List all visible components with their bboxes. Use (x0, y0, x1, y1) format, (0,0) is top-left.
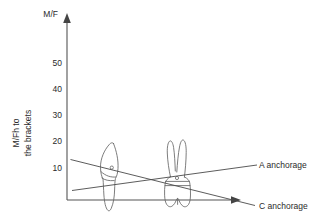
y-axis-title-group: M/Fh to the brackets (11, 110, 33, 156)
y-tick-label-50: 50 (53, 58, 63, 68)
y-tick-label-20: 20 (53, 136, 63, 146)
chart-svg: M/F 50 40 30 20 10 M/Fh to the brackets (0, 0, 325, 222)
right-tooth-bracket-marker (175, 176, 178, 179)
series-line-c-anchorage (71, 160, 256, 206)
legend-label-a-anchorage: A anchorage (259, 160, 307, 170)
left-tooth-diagram (100, 143, 118, 211)
y-tick-label-10: 10 (53, 163, 63, 173)
y-axis-title-line1: M/Fh to (11, 118, 21, 147)
left-tooth-bracket-marker (110, 166, 113, 169)
y-axis-title-line2: the brackets (23, 110, 33, 156)
y-axis-top-label: M/F (43, 9, 58, 19)
y-axis-arrowhead (63, 13, 71, 23)
left-tooth-cej-line (101, 172, 116, 178)
right-tooth-root-mesial (167, 141, 175, 177)
legend-label-c-anchorage: C anchorage (259, 201, 308, 211)
right-tooth-root-distal (177, 140, 186, 177)
chart-container: M/F 50 40 30 20 10 M/Fh to the brackets (0, 0, 325, 222)
left-tooth-gingival-line (102, 178, 114, 181)
right-tooth-diagram (165, 140, 191, 207)
y-tick-label-30: 30 (53, 110, 63, 120)
y-tick-label-40: 40 (53, 84, 63, 94)
